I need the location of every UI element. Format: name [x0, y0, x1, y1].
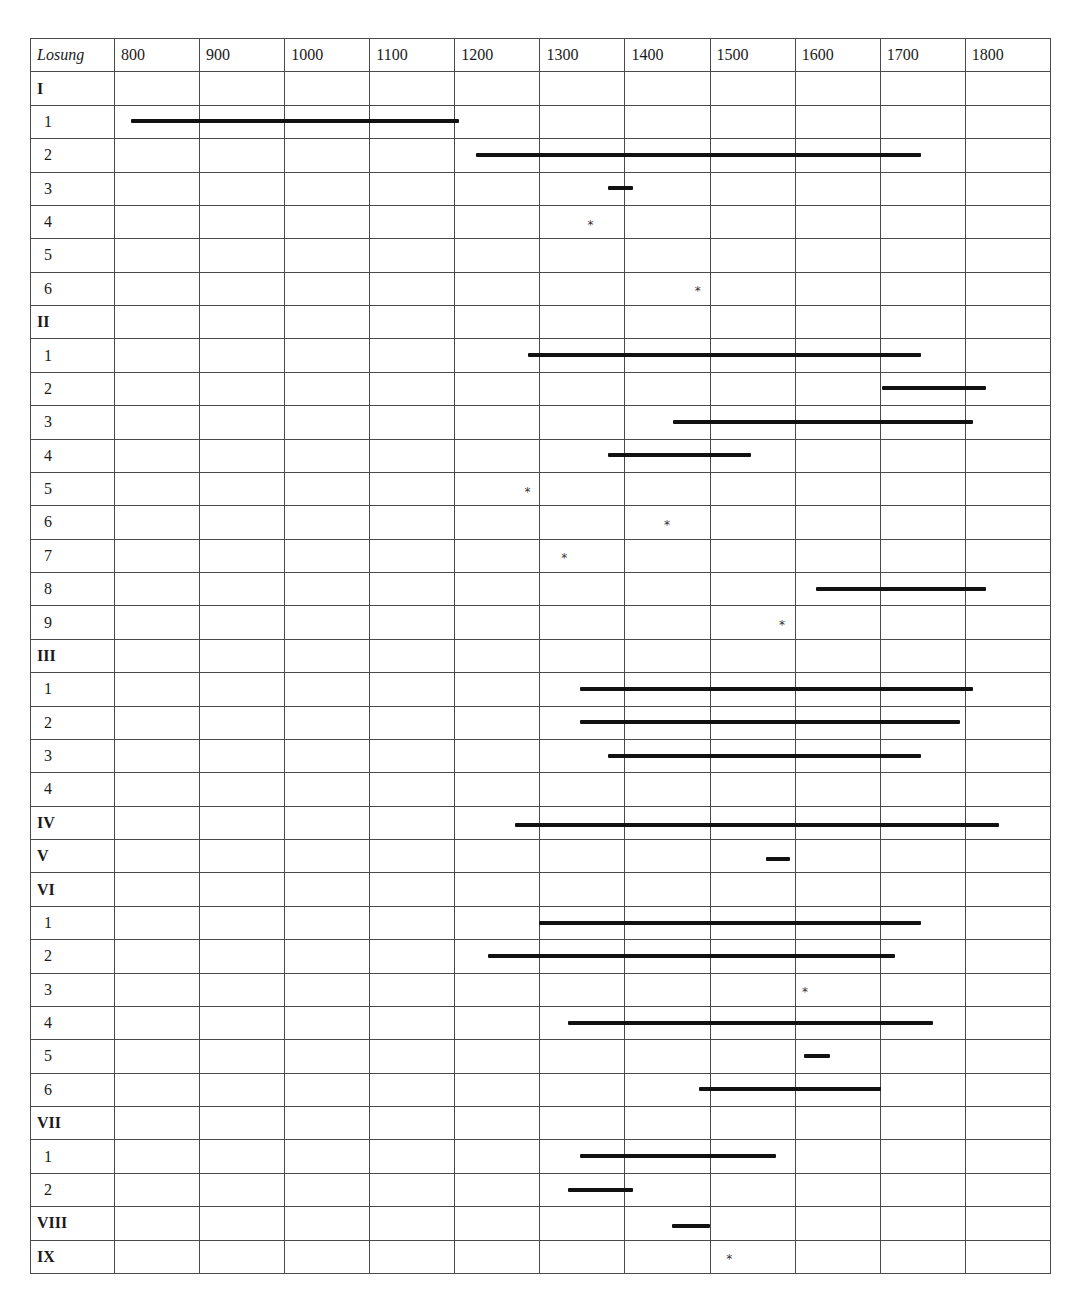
- grid-cell: [455, 472, 540, 505]
- grid-cell: [285, 205, 370, 238]
- grid-cell: [115, 506, 200, 539]
- grid-cell: [795, 172, 880, 205]
- grid-cell: [285, 539, 370, 572]
- item-row: 9: [31, 606, 1051, 639]
- group-label: IV: [31, 806, 115, 839]
- grid-cell: [370, 806, 455, 839]
- grid-cell: [880, 940, 965, 973]
- item-row: 1: [31, 1140, 1051, 1173]
- grid-cell: [370, 205, 455, 238]
- grid-cell: [880, 539, 965, 572]
- grid-cell: [540, 406, 625, 439]
- group-label: III: [31, 639, 115, 672]
- item-label: 7: [31, 539, 115, 572]
- grid-cell: [625, 1073, 710, 1106]
- grid-cell: [455, 105, 540, 138]
- grid-cell: [710, 72, 795, 105]
- grid-cell: [285, 272, 370, 305]
- grid-cell: [455, 940, 540, 973]
- group-row: III: [31, 639, 1051, 672]
- grid-cell: [965, 539, 1050, 572]
- grid-cell: [370, 739, 455, 772]
- grid-cell: [965, 439, 1050, 472]
- grid-cell: [795, 1240, 880, 1273]
- grid-cell: [710, 639, 795, 672]
- grid-cell: [710, 139, 795, 172]
- grid-cell: [625, 606, 710, 639]
- group-row: I: [31, 72, 1051, 105]
- group-row: II: [31, 306, 1051, 339]
- grid-cell: [540, 539, 625, 572]
- grid-cell: [625, 639, 710, 672]
- grid-cell: [285, 1140, 370, 1173]
- grid-cell: [710, 306, 795, 339]
- grid-cell: [115, 239, 200, 272]
- grid-cell: [965, 205, 1050, 238]
- grid-cell: [880, 439, 965, 472]
- grid-cell: [455, 339, 540, 372]
- grid-cell: [795, 840, 880, 873]
- grid-cell: [285, 339, 370, 372]
- grid-cell: [285, 139, 370, 172]
- grid-cell: [795, 940, 880, 973]
- grid-cell: [200, 1173, 285, 1206]
- grid-cell: [285, 105, 370, 138]
- grid-cell: [540, 706, 625, 739]
- grid-cell: [795, 1173, 880, 1206]
- grid-cell: [370, 673, 455, 706]
- grid-cell: [965, 1107, 1050, 1140]
- grid-cell: [965, 873, 1050, 906]
- grid-cell: [710, 773, 795, 806]
- year-header: 1000: [285, 39, 370, 72]
- grid-cell: [540, 172, 625, 205]
- grid-cell: [285, 940, 370, 973]
- grid-cell: [455, 1040, 540, 1073]
- grid-cell: [710, 172, 795, 205]
- grid-cell: [965, 840, 1050, 873]
- grid-cell: [540, 205, 625, 238]
- grid-cell: [880, 973, 965, 1006]
- grid-cell: [880, 205, 965, 238]
- grid-cell: [455, 1140, 540, 1173]
- grid-cell: [795, 873, 880, 906]
- group-row: IX: [31, 1240, 1051, 1273]
- grid-cell: [370, 1073, 455, 1106]
- item-row: 2: [31, 372, 1051, 405]
- grid-cell: [540, 439, 625, 472]
- grid-cell: [370, 439, 455, 472]
- grid-cell: [115, 439, 200, 472]
- grid-cell: [370, 940, 455, 973]
- grid-cell: [880, 339, 965, 372]
- grid-cell: [625, 1107, 710, 1140]
- grid-cell: [115, 606, 200, 639]
- grid-cell: [625, 773, 710, 806]
- grid-cell: [115, 306, 200, 339]
- grid-cell: [965, 506, 1050, 539]
- grid-cell: [115, 1006, 200, 1039]
- grid-cell: [795, 573, 880, 606]
- grid-cell: [115, 706, 200, 739]
- grid-cell: [200, 1207, 285, 1240]
- item-row: 3: [31, 172, 1051, 205]
- grid-cell: [200, 139, 285, 172]
- item-row: 1: [31, 105, 1051, 138]
- grid-cell: [965, 673, 1050, 706]
- grid-cell: [625, 72, 710, 105]
- grid-cell: [455, 306, 540, 339]
- grid-cell: [115, 1240, 200, 1273]
- grid-cell: [455, 506, 540, 539]
- grid-cell: [370, 1040, 455, 1073]
- grid-cell: [710, 406, 795, 439]
- grid-cell: [965, 1006, 1050, 1039]
- grid-cell: [455, 539, 540, 572]
- grid-cell: [455, 873, 540, 906]
- grid-cell: [200, 806, 285, 839]
- grid-cell: [115, 406, 200, 439]
- grid-cell: [200, 439, 285, 472]
- grid-cell: [540, 873, 625, 906]
- grid-cell: [540, 639, 625, 672]
- grid-cell: [200, 773, 285, 806]
- item-label: 2: [31, 1173, 115, 1206]
- grid-cell: [455, 439, 540, 472]
- grid-cell: [710, 706, 795, 739]
